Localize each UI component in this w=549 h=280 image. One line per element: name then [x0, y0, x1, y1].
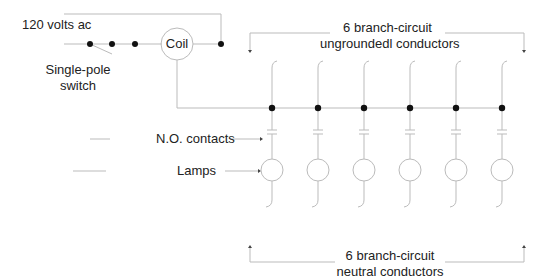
bus-wire: [177, 60, 502, 108]
branch-2: [307, 61, 329, 207]
coil-label: Coil: [161, 36, 193, 52]
branch-4: [399, 61, 421, 207]
supply-label: 120 volts ac: [22, 17, 91, 33]
switch-blade: [90, 44, 112, 54]
lamps-label: Lamps: [177, 163, 216, 179]
branch-5: [445, 61, 467, 207]
branch-3: [353, 61, 375, 207]
branch-1: [261, 61, 283, 207]
ungrounded-conductors-label: 6 branch-circuit ungroundedl conductors: [320, 20, 455, 52]
neutral-conductors-label: 6 branch-circuit neutral conductors: [330, 248, 450, 280]
switch-label: Single-pole switch: [38, 62, 118, 94]
branch-6: [491, 61, 513, 207]
contacts-label: N.O. contacts: [156, 131, 235, 147]
